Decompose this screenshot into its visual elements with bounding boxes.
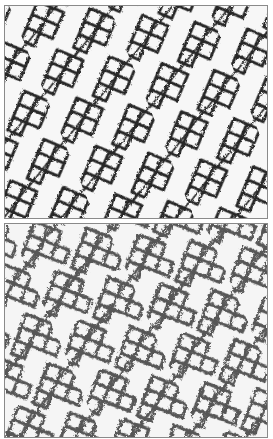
bottom-texture-panel	[4, 223, 268, 438]
lattice-texture-top	[5, 6, 267, 218]
top-texture-panel	[4, 5, 268, 219]
lattice-texture-bottom	[5, 224, 267, 437]
